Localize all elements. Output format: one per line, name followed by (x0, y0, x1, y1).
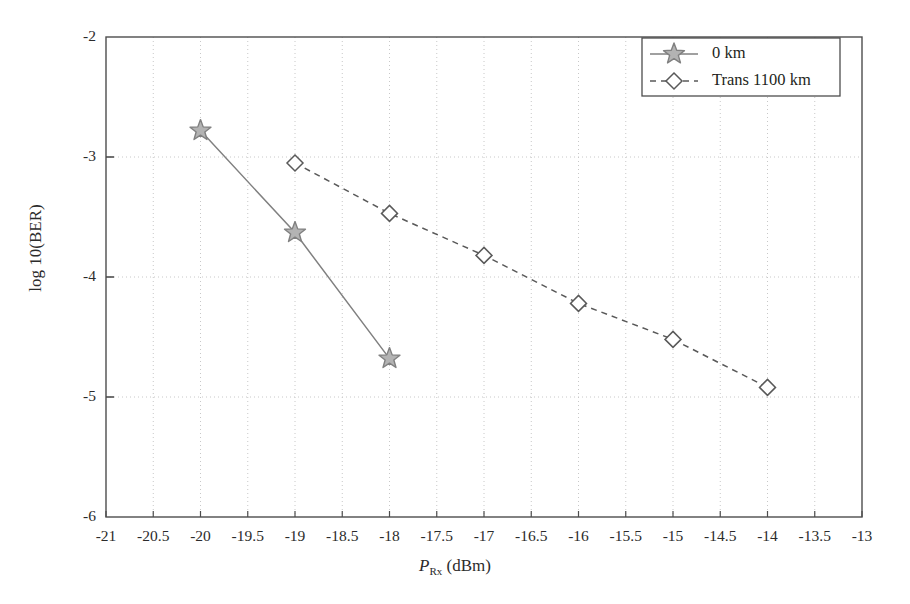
data-point-marker (665, 331, 681, 347)
x-axis-label-subscript: Rx (429, 565, 442, 577)
data-series-layer (190, 120, 775, 396)
x-tick-label: -13 (832, 527, 892, 545)
legend-entry-label: Trans 1100 km (712, 70, 811, 90)
data-point-marker (476, 247, 492, 263)
x-axis-label-symbol: P (419, 556, 429, 575)
y-tick-label: -4 (44, 267, 96, 285)
data-point-marker (382, 205, 398, 221)
y-tick-label: -6 (44, 507, 96, 525)
data-point-marker (379, 348, 400, 368)
data-point-marker (190, 120, 211, 140)
chart-plot-area (0, 0, 910, 604)
x-axis-label-unit: (dBm) (447, 556, 491, 575)
y-tick-label: -5 (44, 387, 96, 405)
data-point-marker (760, 379, 776, 395)
chart-figure: log 10(BER) PRx (dBm) -21-20.5-20-19.5-1… (0, 0, 910, 604)
x-axis-label: PRx (dBm) (0, 556, 910, 577)
y-tick-label: -3 (44, 147, 96, 165)
gridlines (106, 37, 862, 517)
y-tick-label: -2 (44, 27, 96, 45)
data-point-marker (571, 295, 587, 311)
data-point-marker (287, 155, 303, 171)
y-axis-label: log 10(BER) (26, 168, 46, 328)
legend-entry-label: 0 km (712, 43, 745, 63)
